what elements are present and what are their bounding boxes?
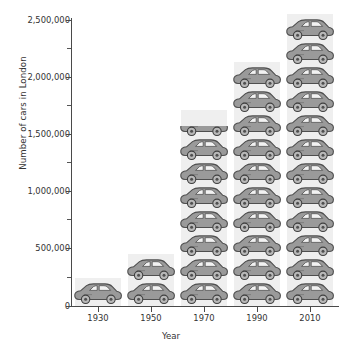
car-icon (284, 234, 336, 258)
car-icon (284, 186, 336, 210)
car-icon (231, 114, 283, 138)
y-tick-major (66, 134, 71, 135)
plot-area (72, 18, 339, 306)
y-tick-label: 2,000,000 (0, 72, 70, 82)
y-tick-major (66, 248, 71, 249)
y-tick-major (66, 77, 71, 78)
car-icon (231, 66, 283, 90)
car-icon (178, 162, 230, 186)
car-icon (231, 210, 283, 234)
y-tick-minor (67, 162, 71, 163)
car-icon (178, 138, 230, 162)
y-tick-minor (67, 105, 71, 106)
x-tick (204, 307, 205, 312)
car-icon (178, 282, 230, 306)
car-icon (178, 234, 230, 258)
car-icon-partial (178, 126, 230, 138)
x-tick (151, 307, 152, 312)
y-axis-tick-labels: 2,500,000 2,000,000 1,500,000 1,000,000 … (0, 0, 70, 353)
car-stack-1970 (178, 126, 230, 306)
car-icon (284, 66, 336, 90)
y-tick-label: 1,500,000 (0, 129, 70, 139)
x-tick-label: 1990 (227, 313, 287, 323)
car-icon (72, 282, 124, 306)
y-tick-minor (67, 48, 71, 49)
y-tick-major (66, 20, 71, 21)
car-stack-1950 (125, 258, 177, 306)
y-tick-minor (67, 277, 71, 278)
x-axis-line (71, 306, 339, 307)
x-tick (98, 307, 99, 312)
y-tick-label: 2,500,000 (0, 15, 70, 25)
x-tick-label: 2010 (280, 313, 340, 323)
car-icon (125, 258, 177, 282)
x-tick-label: 1970 (174, 313, 234, 323)
car-icon (284, 162, 336, 186)
car-icon (178, 186, 230, 210)
car-icon (231, 90, 283, 114)
car-icon (231, 162, 283, 186)
car-icon (284, 210, 336, 234)
y-tick-major (66, 191, 71, 192)
car-icon (231, 258, 283, 282)
y-tick-minor (67, 219, 71, 220)
car-icon (125, 282, 177, 306)
x-tick-label: 1950 (121, 313, 181, 323)
car-icon (178, 210, 230, 234)
car-icon (231, 186, 283, 210)
car-stack-1990 (231, 66, 283, 306)
y-tick-label: 1,000,000 (0, 186, 70, 196)
car-icon (231, 138, 283, 162)
car-icon (284, 18, 336, 42)
y-tick-label: 0 (0, 301, 70, 311)
car-icon (284, 282, 336, 306)
car-icon (284, 138, 336, 162)
x-tick-label: 1930 (68, 313, 128, 323)
car-icon (284, 42, 336, 66)
car-stack-1930 (72, 282, 124, 306)
y-tick-major (66, 306, 71, 307)
car-icon (284, 90, 336, 114)
car-icon (284, 258, 336, 282)
car-icon (284, 114, 336, 138)
car-icon (178, 258, 230, 282)
y-tick-label: 500,000 (0, 243, 70, 253)
car-icon (231, 282, 283, 306)
car-icon (231, 234, 283, 258)
x-tick (310, 307, 311, 312)
x-tick (257, 307, 258, 312)
pictogram-chart: Number of cars in London Year 2,500,000 … (0, 0, 342, 353)
car-stack-2010 (284, 18, 336, 306)
